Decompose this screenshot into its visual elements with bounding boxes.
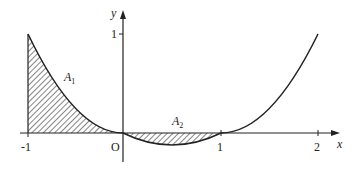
y-axis-label: y [110, 6, 117, 20]
origin-label: O [111, 140, 120, 154]
x-tick-label-1: 1 [217, 140, 223, 154]
region-a1 [28, 34, 123, 133]
region-a1-label: A1 [63, 70, 75, 86]
y-axis-arrow-icon [120, 10, 126, 19]
x-axis-label: x [336, 137, 343, 151]
plot-svg: y 1 -1 O 1 2 x A1 A2 [0, 0, 359, 173]
x-tick-label-2: 2 [314, 140, 320, 154]
x-tick-label-neg1: -1 [21, 140, 31, 154]
x-axis-arrow-icon [331, 130, 340, 136]
region-a2-label: A2 [171, 114, 183, 130]
diagram: y 1 -1 O 1 2 x A1 A2 [0, 0, 359, 173]
y-tick-label-1: 1 [111, 27, 117, 41]
